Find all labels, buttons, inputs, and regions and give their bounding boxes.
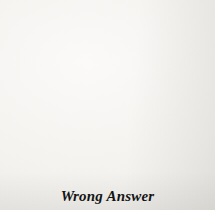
- grid-line-horizontal: [19, 97, 203, 98]
- stone-black: [111, 55, 128, 72]
- move-number: 2: [117, 7, 123, 18]
- stone-black-move-1: 1: [94, 5, 111, 22]
- stone-black: [128, 38, 145, 55]
- move-number: 1: [100, 7, 106, 18]
- stone-black: [77, 38, 94, 55]
- grid-line-horizontal: [19, 80, 203, 81]
- stone-white: [27, 38, 44, 55]
- stone-white: [61, 55, 78, 72]
- grid-line-vertical: [170, 12, 171, 185]
- grid-line-horizontal: [19, 113, 203, 114]
- stone-black: [94, 55, 111, 72]
- grid-line-horizontal: [19, 147, 203, 148]
- stone-white: [94, 21, 111, 38]
- stone-white: [77, 5, 94, 22]
- stone-black: [44, 5, 61, 22]
- stone-white: [144, 55, 161, 72]
- stone-white: [77, 55, 94, 72]
- stone-black: [128, 21, 145, 38]
- stone-white: [128, 5, 145, 22]
- stone-white: [61, 5, 78, 22]
- stone-black: [77, 21, 94, 38]
- stone-white: [44, 55, 61, 72]
- board-edge-right: [202, 12, 204, 185]
- star-point: [50, 161, 55, 166]
- star-point: [150, 161, 155, 166]
- grid-line-horizontal: [19, 164, 203, 165]
- go-problem-figure: 12 Wrong Answer: [0, 0, 215, 210]
- figure-caption: Wrong Answer: [0, 188, 215, 205]
- stone-white: [144, 38, 161, 55]
- stone-black: [44, 21, 61, 38]
- go-board: 12: [0, 0, 215, 210]
- stone-white: [94, 38, 111, 55]
- grid-line-horizontal: [19, 130, 203, 131]
- board-edge-left: [18, 12, 20, 185]
- stone-white: [144, 21, 161, 38]
- stone-white: [27, 21, 44, 38]
- stone-white-move-2: 2: [111, 5, 128, 22]
- stone-black: [61, 21, 78, 38]
- grid-line-horizontal: [19, 180, 203, 181]
- grid-line-vertical: [186, 12, 187, 185]
- stone-white: [111, 21, 128, 38]
